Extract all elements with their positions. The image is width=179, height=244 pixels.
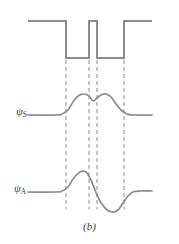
psi-antisymmetric-label: ψA xyxy=(14,183,26,196)
psi-symmetric-curve xyxy=(28,94,152,115)
potential-step-line xyxy=(28,21,152,58)
psi-symmetric-label: ψS xyxy=(16,106,27,119)
psi-symmetric-line xyxy=(28,94,152,115)
psi-antisymmetric-line xyxy=(28,171,152,212)
psi-antisymmetric-glyph: ψ xyxy=(14,182,21,194)
psi-antisymmetric-curve xyxy=(28,171,152,212)
psi-antisymmetric-subscript: A xyxy=(21,187,26,196)
psi-symmetric-glyph: ψ xyxy=(16,105,23,117)
psi-symmetric-subscript: S xyxy=(23,110,27,119)
panel-caption: (b) xyxy=(0,220,179,232)
potential-well-curve xyxy=(28,21,152,58)
figure-panel-b: ψS ψA (b) xyxy=(0,0,179,244)
dashed-guide-lines xyxy=(66,60,124,209)
double-well-potential-diagram xyxy=(0,0,179,244)
